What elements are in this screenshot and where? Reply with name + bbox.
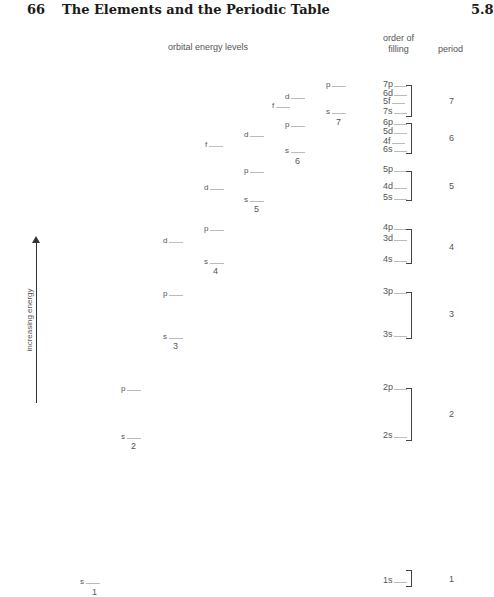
filling-entry-5p: 5p <box>383 165 407 174</box>
order-heading-line1: order of <box>383 33 414 44</box>
order-heading-line2: filling <box>383 44 414 55</box>
filling-entry-3p: 3p <box>383 287 407 296</box>
filling-entry-4d: 4d <box>383 182 407 191</box>
orbital-level-p: p <box>285 120 305 129</box>
filling-entry-2s: 2s <box>383 431 407 440</box>
period-number: 5 <box>449 181 454 191</box>
filling-entry-3d: 3d <box>383 234 407 243</box>
orbital-level-f: f <box>205 140 223 149</box>
shell-number: 5 <box>254 204 259 214</box>
orbital-level-d: d <box>163 236 183 245</box>
period-bracket <box>406 292 412 339</box>
orbital-level-p: p <box>204 224 224 233</box>
shell-number: 1 <box>92 587 97 597</box>
orbital-level-f: f <box>272 101 290 110</box>
orbital-level-p: p <box>244 166 264 175</box>
shell-number: 2 <box>131 441 136 451</box>
shell-number: 3 <box>173 341 178 351</box>
page-number: 66 <box>27 2 45 17</box>
period-bracket <box>406 570 412 587</box>
order-of-filling-heading: order of filling <box>383 33 414 55</box>
orbital-level-s: s <box>80 577 100 586</box>
filling-entry-5s: 5s <box>383 193 407 202</box>
period-number: 2 <box>449 409 454 419</box>
orbital-level-s: s <box>326 107 346 116</box>
filling-entry-1s: 1s <box>383 576 407 585</box>
filling-entry-4s: 4s <box>383 255 407 264</box>
period-number: 6 <box>449 133 454 143</box>
orbital-level-s: s <box>121 432 141 441</box>
period-number: 7 <box>449 96 454 106</box>
filling-entry-3s: 3s <box>383 330 407 339</box>
period-number: 4 <box>449 242 454 252</box>
orbital-level-s: s <box>163 332 183 341</box>
period-bracket <box>406 388 412 441</box>
period-bracket <box>406 229 412 264</box>
orbital-level-p: p <box>326 80 346 89</box>
period-bracket <box>406 171 412 201</box>
orbital-level-d: d <box>244 130 264 139</box>
arrow-up-icon <box>32 236 40 243</box>
shell-number: 7 <box>336 117 341 127</box>
orbital-level-d: d <box>204 183 224 192</box>
filling-entry-5d: 5d <box>383 127 407 136</box>
filling-entry-5f: 5f <box>383 97 405 106</box>
period-bracket <box>406 123 412 154</box>
period-heading: period <box>438 44 463 55</box>
orbital-levels-heading: orbital energy levels <box>168 42 248 53</box>
period-number: 1 <box>449 574 454 584</box>
filling-entry-7s: 7s <box>383 107 407 116</box>
energy-arrow-shaft <box>36 241 37 403</box>
filling-entry-4p: 4p <box>383 223 407 232</box>
orbital-level-s: s <box>285 146 305 155</box>
orbital-level-p: p <box>163 289 183 298</box>
period-number: 3 <box>449 309 454 319</box>
shell-number: 4 <box>213 266 218 276</box>
orbital-level-p: p <box>121 384 141 393</box>
shell-number: 6 <box>295 156 300 166</box>
chapter-title: The Elements and the Periodic Table <box>62 2 330 17</box>
energy-axis-label: increasing energy <box>25 288 34 351</box>
orbital-level-s: s <box>244 195 264 204</box>
section-number: 5.8 <box>471 2 494 17</box>
orbital-level-d: d <box>285 92 305 101</box>
filling-entry-6s: 6s <box>383 145 407 154</box>
orbital-level-s: s <box>204 257 224 266</box>
period-bracket <box>406 85 412 117</box>
filling-entry-2p: 2p <box>383 383 407 392</box>
